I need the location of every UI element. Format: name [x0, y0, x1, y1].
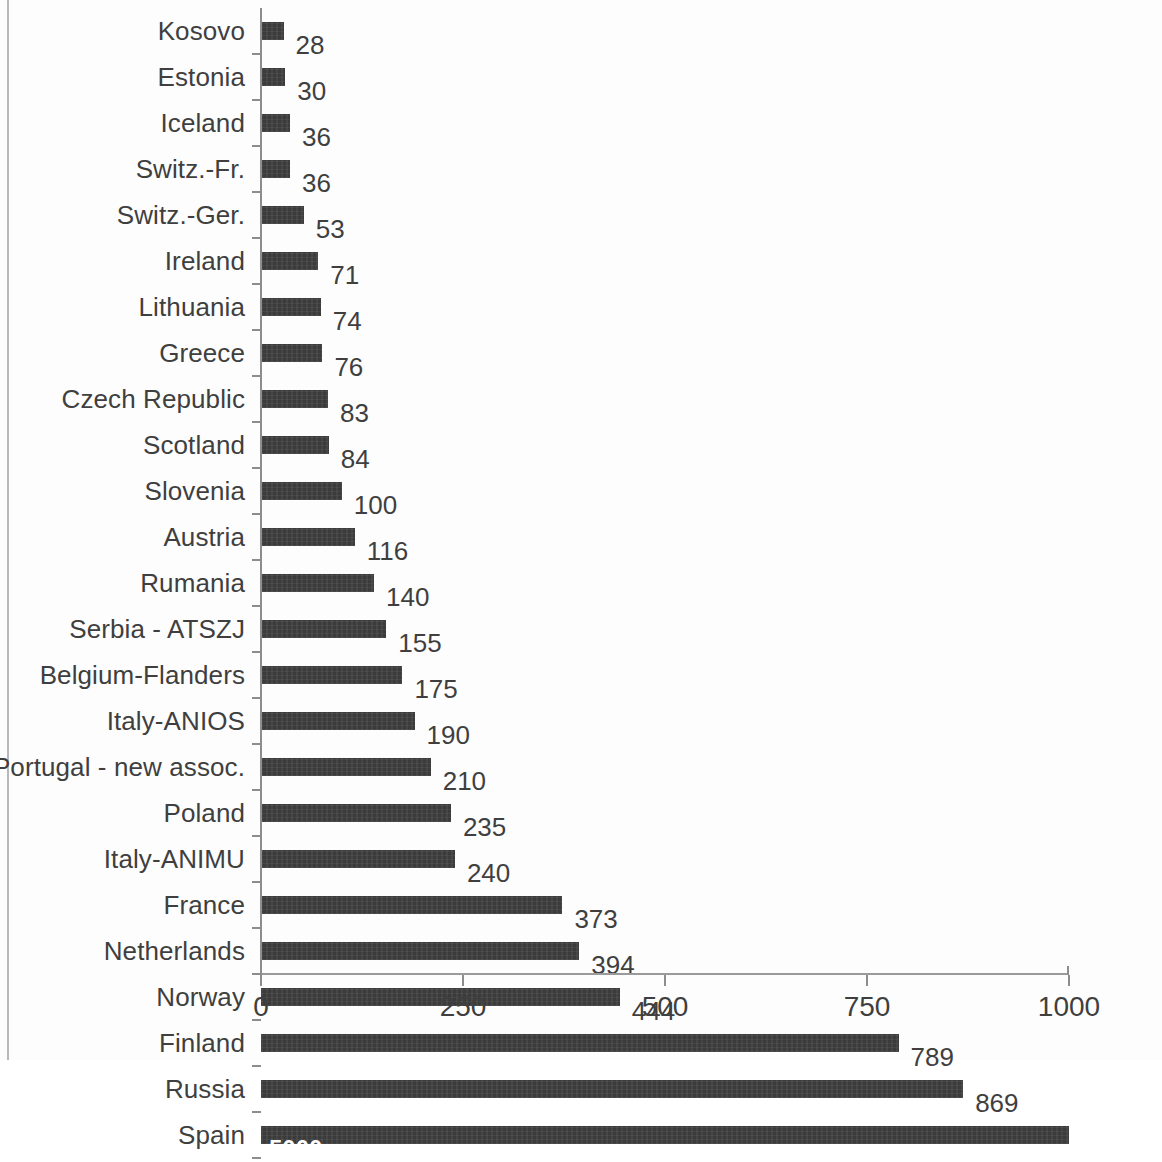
category-label: Rumania	[140, 560, 245, 606]
bar-track: 28	[261, 22, 1069, 40]
bar-row: Scotland84	[0, 422, 1162, 468]
bar-row: Kosovo28	[0, 8, 1162, 54]
bar	[261, 942, 579, 960]
category-label: Ireland	[165, 238, 245, 284]
bar-track: 53	[261, 206, 1069, 224]
category-label: Portugal - new assoc.	[0, 744, 245, 790]
bar	[261, 666, 402, 684]
x-axis-tick-label: 1000	[1038, 991, 1100, 1023]
category-label: Slovenia	[144, 468, 245, 514]
bar-row: Norway444	[0, 974, 1162, 1020]
bar	[261, 758, 431, 776]
category-label: Italy-ANIOS	[107, 698, 245, 744]
bar-row: Portugal - new assoc.210	[0, 744, 1162, 790]
bar-track: 71	[261, 252, 1069, 270]
category-label: France	[163, 882, 245, 928]
y-axis-tick	[252, 1157, 261, 1159]
category-label: Serbia - ATSZJ	[69, 606, 245, 652]
bar	[261, 1080, 963, 1098]
bar-row: Austria116	[0, 514, 1162, 560]
category-label: Finland	[159, 1020, 245, 1066]
x-axis-tick	[1068, 975, 1070, 986]
bar-row: Spain5000	[0, 1112, 1162, 1158]
x-axis-tick	[260, 975, 262, 986]
x-axis-start-cap	[260, 966, 262, 975]
bar-track: 155	[261, 620, 1069, 638]
x-axis-tick	[664, 975, 666, 986]
bar	[261, 620, 386, 638]
bar-row: Russia869	[0, 1066, 1162, 1112]
bar-row: France373	[0, 882, 1162, 928]
bar-track: 869	[261, 1080, 1069, 1098]
bar	[261, 804, 451, 822]
bar-row: Serbia - ATSZJ155	[0, 606, 1162, 652]
category-label: Lithuania	[139, 284, 245, 330]
bar-row: Ireland71	[0, 238, 1162, 284]
bar	[261, 574, 374, 592]
bar-track: 175	[261, 666, 1069, 684]
bar-track: 30	[261, 68, 1069, 86]
bar	[261, 436, 329, 454]
x-axis-tick-label: 500	[642, 991, 689, 1023]
x-axis-tick	[462, 975, 464, 986]
bar	[261, 1034, 899, 1052]
bar-row: Iceland36	[0, 100, 1162, 146]
bar	[261, 896, 562, 914]
bar-track: 36	[261, 160, 1069, 178]
bar	[261, 344, 322, 362]
category-label: Switz.-Ger.	[117, 192, 245, 238]
category-label: Norway	[156, 974, 245, 1020]
bar-row: Rumania140	[0, 560, 1162, 606]
bar-row: Estonia30	[0, 54, 1162, 100]
category-label: Switz.-Fr.	[136, 146, 245, 192]
bar	[261, 298, 321, 316]
category-label: Kosovo	[158, 8, 245, 54]
category-label: Iceland	[160, 100, 245, 146]
bar	[261, 390, 328, 408]
bar-track: 240	[261, 850, 1069, 868]
bar-row: Poland235	[0, 790, 1162, 836]
bar-row: Netherlands394	[0, 928, 1162, 974]
bar-row: Switz.-Ger.53	[0, 192, 1162, 238]
bar-track: 5000	[261, 1126, 1069, 1144]
bar-track: 235	[261, 804, 1069, 822]
bar	[261, 252, 318, 270]
bar	[261, 482, 342, 500]
bar-track: 190	[261, 712, 1069, 730]
bar	[261, 528, 355, 546]
bar-track: 373	[261, 896, 1069, 914]
bar-row: Finland789	[0, 1020, 1162, 1066]
bar-row: Italy-ANIMU240	[0, 836, 1162, 882]
category-label: Spain	[178, 1112, 245, 1158]
x-axis-tick-label: 750	[844, 991, 891, 1023]
bar-track: 789	[261, 1034, 1069, 1052]
x-axis-tick-label: 0	[253, 991, 269, 1023]
category-label: Estonia	[158, 54, 245, 100]
bar	[261, 114, 290, 132]
bar	[261, 1126, 1069, 1144]
category-label: Scotland	[143, 422, 245, 468]
bar-row: Lithuania74	[0, 284, 1162, 330]
bar-track: 100	[261, 482, 1069, 500]
category-label: Russia	[165, 1066, 245, 1112]
bar-track: 210	[261, 758, 1069, 776]
bar	[261, 160, 290, 178]
x-axis-tick-label: 250	[440, 991, 487, 1023]
bar-track: 83	[261, 390, 1069, 408]
y-axis-line	[260, 8, 262, 974]
bar-row: Switz.-Fr.36	[0, 146, 1162, 192]
bar-row: Greece76	[0, 330, 1162, 376]
bar-track: 84	[261, 436, 1069, 454]
bar-row: Slovenia100	[0, 468, 1162, 514]
category-label: Czech Republic	[62, 376, 246, 422]
bar-track: 76	[261, 344, 1069, 362]
bar-track: 74	[261, 298, 1069, 316]
bar	[261, 68, 285, 86]
category-label: Austria	[163, 514, 245, 560]
bar-track: 36	[261, 114, 1069, 132]
bar	[261, 22, 284, 40]
bar	[261, 850, 455, 868]
bar-row: Belgium-Flanders175	[0, 652, 1162, 698]
